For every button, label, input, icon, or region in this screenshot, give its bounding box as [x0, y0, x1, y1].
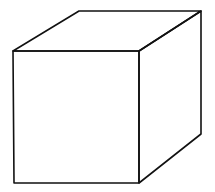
cube-front-face: [13, 51, 139, 183]
cube-drawing: [0, 0, 215, 192]
cube-top-face: [13, 11, 201, 51]
cube-right-face: [139, 11, 201, 183]
